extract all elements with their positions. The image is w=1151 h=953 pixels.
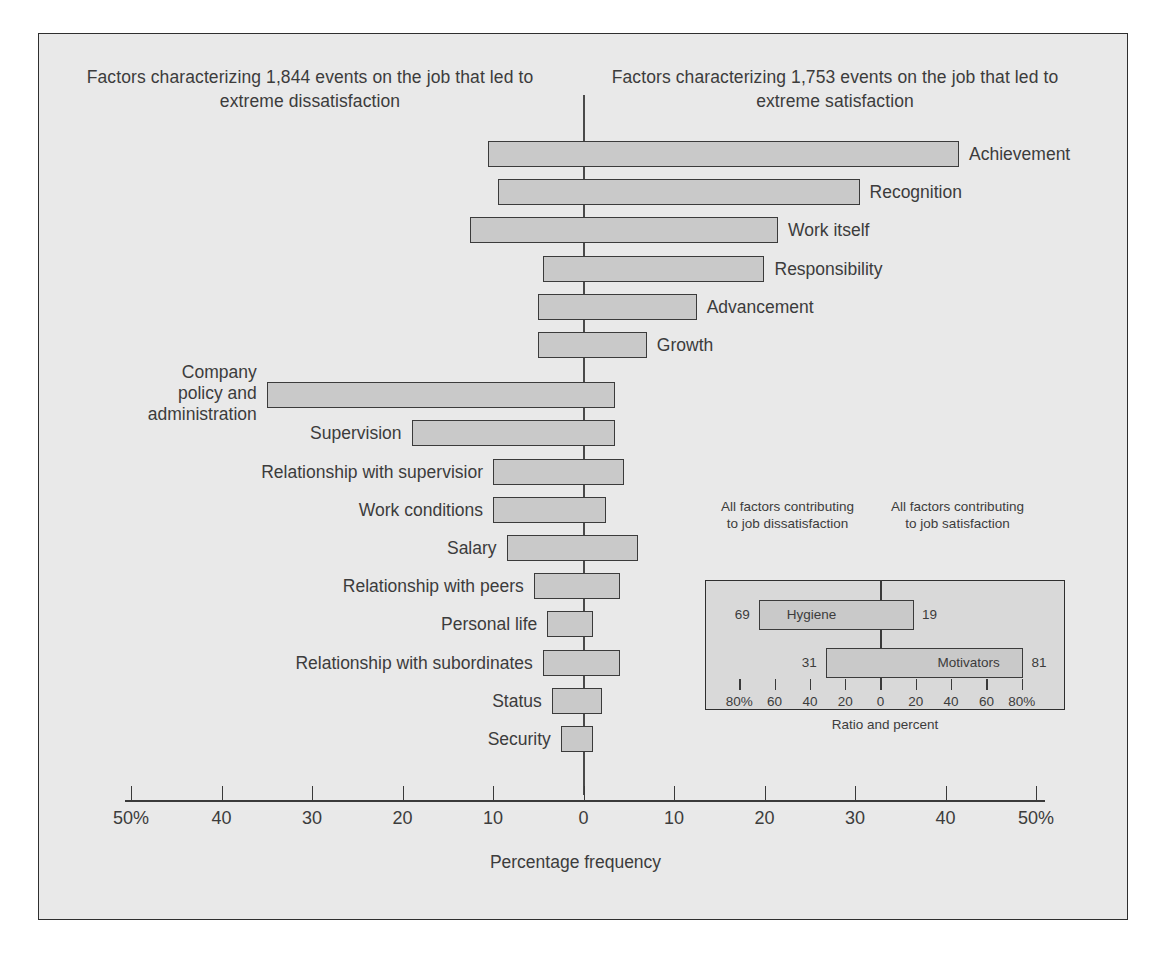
bar-row: Advancement (0, 294, 1151, 324)
inset-caption-right: All factors contributing to job satisfac… (885, 498, 1030, 532)
factor-bar[interactable] (552, 688, 602, 714)
x-axis-tick (312, 786, 313, 800)
inset-axis-tick (845, 679, 846, 690)
x-axis-tick (765, 786, 766, 800)
inset-bar-left-value: 69 (735, 600, 750, 630)
inset-axis-tick (916, 679, 917, 690)
factor-bar[interactable] (561, 726, 593, 752)
inset-axis-title: Ratio and percent (705, 717, 1065, 732)
inset-axis-tick-label: 80% (1008, 694, 1035, 709)
x-axis-tick (1036, 786, 1037, 800)
inset-axis-tick (810, 679, 811, 690)
inset-bar-right-value: 19 (922, 600, 937, 630)
factor-bar-label: Relationship with subordinates (233, 650, 533, 676)
bar-row: Recognition (0, 179, 1151, 209)
inset-axis-tick-label: 40 (802, 694, 817, 709)
factor-bar-label: Achievement (969, 141, 1070, 167)
x-axis-tick (403, 786, 404, 800)
x-axis-tick (674, 786, 675, 800)
bar-row: Achievement (0, 141, 1151, 171)
bar-row: Supervision (0, 420, 1151, 450)
x-axis-line (125, 800, 1045, 802)
inset-bar-right-value: 81 (1031, 648, 1046, 678)
inset-bar[interactable] (759, 600, 914, 630)
factor-bar[interactable] (498, 179, 860, 205)
factor-bar[interactable] (507, 535, 638, 561)
x-axis-tick-label: 20 (392, 808, 412, 829)
factor-bar-label: Work itself (788, 217, 869, 243)
factor-bar-label: Growth (657, 332, 713, 358)
inset-axis-tick-label: 20 (908, 694, 923, 709)
factor-bar[interactable] (412, 420, 616, 446)
factor-bar-label: Relationship with supervisior (183, 459, 483, 485)
factor-bar[interactable] (267, 382, 615, 408)
x-axis-tick (855, 786, 856, 800)
x-axis-tick-label: 30 (845, 808, 865, 829)
inset-axis-tick-label: 40 (944, 694, 959, 709)
bar-row: Responsibility (0, 256, 1151, 286)
factor-bar[interactable] (538, 294, 696, 320)
factor-bar[interactable] (493, 497, 606, 523)
inset-axis-tick (1022, 679, 1023, 690)
factor-bar-label: Salary (197, 535, 497, 561)
x-axis-title: Percentage frequency (0, 852, 1151, 873)
factor-bar-label: Responsibility (775, 256, 883, 282)
factor-bar[interactable] (534, 573, 620, 599)
x-axis-tick (222, 786, 223, 800)
inset-axis-tick (986, 679, 987, 690)
inset-axis-tick-label: 0 (877, 694, 885, 709)
x-axis-tick-label: 0 (578, 808, 588, 829)
x-axis-tick-label: 50% (113, 808, 149, 829)
x-axis-tick (584, 786, 585, 800)
bar-rows: AchievementRecognitionWork itselfRespons… (0, 0, 1151, 953)
factor-bar[interactable] (470, 217, 778, 243)
factor-bar-label: Advancement (707, 294, 814, 320)
inset-caption-left: All factors contributing to job dissatis… (715, 498, 860, 532)
x-axis-tick-label: 10 (664, 808, 684, 829)
x-axis-tick (946, 786, 947, 800)
x-axis-tick-label: 50% (1018, 808, 1054, 829)
inset-axis-tick-label: 80% (726, 694, 753, 709)
x-axis-tick-label: 40 (935, 808, 955, 829)
x-axis-tick (131, 786, 132, 800)
factor-bar-label: Work conditions (183, 497, 483, 523)
inset-axis-tick (739, 679, 740, 690)
factor-bar[interactable] (547, 611, 592, 637)
factor-bar[interactable] (543, 256, 765, 282)
x-axis-tick-label: 30 (302, 808, 322, 829)
factor-bar[interactable] (543, 650, 620, 676)
factor-bar[interactable] (493, 459, 624, 485)
inset-axis-tick-label: 20 (838, 694, 853, 709)
bar-row: Relationship with supervisior (0, 459, 1151, 489)
factor-bar[interactable] (488, 141, 959, 167)
chart-root: Factors characterizing 1,844 events on t… (0, 0, 1151, 953)
factor-bar-label: Supervision (102, 420, 402, 446)
bar-row: Work itself (0, 217, 1151, 247)
x-axis-tick-label: 20 (754, 808, 774, 829)
factor-bar-label: Companypolicy andadministration (127, 362, 257, 425)
x-axis-tick (493, 786, 494, 800)
bar-row: Growth (0, 332, 1151, 362)
inset-bar-label: Motivators (937, 648, 999, 678)
factor-bar-label: Personal life (237, 611, 537, 637)
factor-bar-label: Recognition (870, 179, 962, 205)
bar-row: Salary (0, 535, 1151, 565)
inset-axis-tick-label: 60 (979, 694, 994, 709)
x-axis-tick-label: 40 (211, 808, 231, 829)
x-axis-tick-label: 10 (483, 808, 503, 829)
factor-bar-label: Status (242, 688, 542, 714)
inset-axis-tick (951, 679, 952, 690)
factor-bar-label: Relationship with peers (224, 573, 524, 599)
bar-row: Companypolicy andadministration (0, 382, 1151, 412)
inset-bar-left-value: 31 (802, 648, 817, 678)
factor-bar[interactable] (538, 332, 647, 358)
inset-axis-tick (775, 679, 776, 690)
inset-bar-label: Hygiene (787, 600, 837, 630)
inset-axis-tick-label: 60 (767, 694, 782, 709)
factor-bar-label: Security (251, 726, 551, 752)
